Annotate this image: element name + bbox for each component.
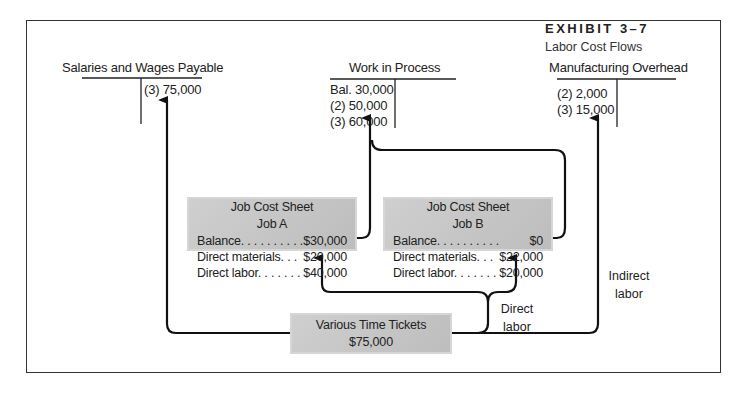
job-b-title: Job Cost Sheet [385,199,551,216]
row-value: $22,000 [499,249,543,265]
row-value: $20,000 [303,249,347,265]
job-b-row: Balance. . . . . . . . . .$0 [385,233,551,249]
job-b-row: Direct materials. . .$22,000 [385,249,551,265]
time-tickets-title: Various Time Tickets [292,317,450,334]
job-cost-sheet-a: Job Cost Sheet Job A Balance. . . . . . … [187,197,357,251]
row-label: Direct materials. . . [197,249,297,265]
row-value: $20,000 [499,265,543,281]
direct-label-line2: labor [494,318,540,336]
row-label: Direct materials. . . [393,249,493,265]
row-label: Balance. . . . . . . . . . [393,233,499,249]
row-value: $40,000 [303,265,347,281]
job-cost-sheet-b: Job Cost Sheet Job B Balance. . . . . . … [383,197,553,251]
indirect-labor-label: Indirect labor [603,267,655,303]
time-tickets-box: Various Time Tickets $75,000 [290,313,452,354]
row-label: Direct labor. . . . . . . [197,265,300,281]
job-a-row: Direct labor. . . . . . .$40,000 [189,265,355,281]
job-a-row: Balance. . . . . . . . . .$30,000 [189,233,355,249]
direct-label-line1: Direct [494,300,540,318]
row-label: Direct labor. . . . . . . [393,265,496,281]
time-tickets-amount: $75,000 [292,334,450,351]
row-label: Balance. . . . . . . . . . [197,233,303,249]
job-b-name: Job B [385,216,551,233]
indirect-label-line2: labor [603,285,655,303]
job-b-row: Direct labor. . . . . . .$20,000 [385,265,551,281]
row-value: $30,000 [303,233,347,249]
t-account-lines [82,78,676,128]
indirect-label-line1: Indirect [603,267,655,285]
row-value: $0 [529,233,543,249]
job-a-row: Direct materials. . .$20,000 [189,249,355,265]
job-a-name: Job A [189,216,355,233]
direct-labor-label: Direct labor [494,300,540,336]
job-a-title: Job Cost Sheet [189,199,355,216]
